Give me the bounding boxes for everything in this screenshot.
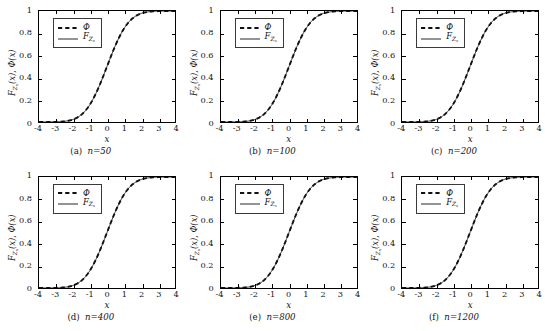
legend-entry-empirical-e: FZn — [240, 199, 277, 210]
x-tick-b-4 — [290, 11, 291, 14]
y-tick-a-2 — [172, 79, 175, 80]
x-tick-b-4 — [290, 119, 291, 122]
y-tick-d-2 — [39, 244, 42, 245]
x-tick-e-5 — [307, 177, 308, 180]
x-tick-c-2 — [437, 11, 438, 14]
x-tick-b-7 — [341, 11, 342, 14]
x-tick-a-1 — [56, 11, 57, 14]
x-tick-d-3 — [91, 177, 92, 180]
y-axis-title-c: FZn(x), Φ(x) — [370, 16, 381, 129]
y-tick-a-3 — [172, 56, 175, 57]
subplot-caption-e: (e) n=800 — [182, 312, 364, 322]
x-tick-c-5 — [488, 11, 489, 14]
legend-label-empirical-cdf: FZn — [265, 32, 277, 45]
y-tick-e-4 — [221, 199, 224, 200]
legend-key-solid-icon — [240, 200, 260, 208]
y-tick-label-f-5: 1 — [363, 171, 395, 180]
legend-entry-empirical-b: FZn — [240, 33, 277, 44]
y-tick-label-e-5: 1 — [182, 171, 214, 180]
y-tick-e-4 — [353, 199, 356, 200]
y-tick-a-4 — [39, 34, 42, 35]
y-tick-f-4 — [535, 199, 538, 200]
y-tick-c-3 — [402, 56, 405, 57]
x-tick-b-6 — [324, 119, 325, 122]
subplot-b: ΦFZn-4-3-2-10123400.20.40.60.81xFZn(x), … — [182, 0, 364, 166]
x-tick-b-1 — [238, 11, 239, 14]
x-tick-a-2 — [74, 11, 75, 14]
legend-key-solid-icon — [421, 35, 441, 43]
y-tick-d-3 — [39, 222, 42, 223]
x-tick-a-4 — [108, 11, 109, 14]
x-tick-d-1 — [56, 284, 57, 287]
x-tick-e-3 — [272, 177, 273, 180]
y-tick-f-3 — [402, 222, 405, 223]
x-tick-e-5 — [307, 284, 308, 287]
legend-entry-empirical-d: FZn — [58, 199, 95, 210]
subplot-c: ΦFZn-4-3-2-10123400.20.40.60.81xFZn(x), … — [363, 0, 545, 166]
legend-b: ΦFZn — [235, 18, 284, 48]
legend-key-dashed-icon — [58, 189, 78, 197]
y-tick-label-b-5: 1 — [182, 6, 214, 15]
x-tick-a-7 — [160, 119, 161, 122]
x-tick-d-7 — [160, 284, 161, 287]
y-tick-f-3 — [535, 222, 538, 223]
x-tick-d-2 — [74, 177, 75, 180]
legend-label-empirical-cdf: FZn — [446, 32, 458, 45]
x-tick-b-2 — [255, 11, 256, 14]
plot-area-f: ΦFZn — [401, 176, 539, 289]
subplot-d: ΦFZn-4-3-2-10123400.20.40.60.81xFZn(x), … — [0, 166, 182, 331]
x-tick-c-5 — [488, 119, 489, 122]
x-tick-f-2 — [437, 177, 438, 180]
x-tick-d-6 — [143, 177, 144, 180]
x-tick-e-7 — [341, 177, 342, 180]
legend-key-solid-icon — [58, 200, 78, 208]
legend-key-dashed-icon — [240, 189, 260, 197]
x-tick-b-5 — [307, 119, 308, 122]
x-tick-a-3 — [91, 11, 92, 14]
y-tick-f-4 — [402, 199, 405, 200]
x-tick-f-4 — [471, 177, 472, 180]
x-axis-title-c: x — [401, 134, 539, 144]
y-tick-c-1 — [535, 101, 538, 102]
x-axis-title-d: x — [38, 300, 176, 310]
y-tick-b-3 — [353, 56, 356, 57]
y-tick-e-1 — [221, 267, 224, 268]
x-tick-f-5 — [488, 177, 489, 180]
subplot-caption-b: (b) n=100 — [182, 146, 364, 156]
x-tick-f-5 — [488, 284, 489, 287]
y-tick-c-4 — [402, 34, 405, 35]
x-tick-f-1 — [419, 284, 420, 287]
y-tick-b-2 — [221, 79, 224, 80]
subplot-f: ΦFZn-4-3-2-10123400.20.40.60.81xFZn(x), … — [363, 166, 545, 331]
y-axis-title-f: FZn(x), Φ(x) — [370, 181, 381, 294]
subplot-caption-d: (d) n=400 — [0, 312, 182, 322]
y-tick-c-1 — [402, 101, 405, 102]
y-axis-title-e: FZn(x), Φ(x) — [188, 181, 199, 294]
y-tick-a-3 — [39, 56, 42, 57]
y-tick-f-1 — [535, 267, 538, 268]
plot-area-c: ΦFZn — [401, 10, 539, 123]
legend-label-empirical-cdf: FZn — [83, 32, 95, 45]
legend-key-solid-icon — [58, 35, 78, 43]
x-tick-d-5 — [125, 177, 126, 180]
x-axis-title-b: x — [220, 134, 358, 144]
y-tick-d-4 — [39, 199, 42, 200]
y-tick-e-2 — [353, 244, 356, 245]
y-tick-label-c-5: 1 — [363, 6, 395, 15]
x-tick-f-3 — [454, 284, 455, 287]
legend-key-dashed-icon — [421, 189, 441, 197]
x-tick-f-2 — [437, 284, 438, 287]
x-tick-c-4 — [471, 119, 472, 122]
x-tick-e-4 — [290, 177, 291, 180]
x-tick-c-3 — [454, 11, 455, 14]
x-tick-a-6 — [143, 11, 144, 14]
y-tick-b-1 — [353, 101, 356, 102]
y-tick-b-4 — [221, 34, 224, 35]
x-tick-d-2 — [74, 284, 75, 287]
y-tick-d-1 — [39, 267, 42, 268]
y-axis-title-a: FZn(x), Φ(x) — [7, 16, 18, 129]
x-tick-e-6 — [324, 177, 325, 180]
x-tick-b-7 — [341, 119, 342, 122]
y-tick-a-1 — [39, 101, 42, 102]
x-tick-b-5 — [307, 11, 308, 14]
